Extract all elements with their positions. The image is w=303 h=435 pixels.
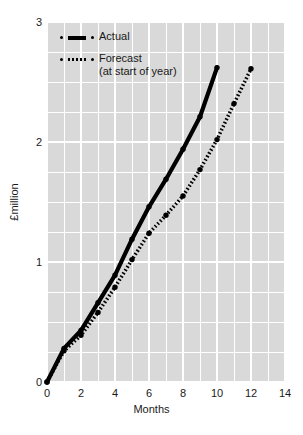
data-point-marker	[112, 273, 117, 278]
y-tick-label: 1	[30, 256, 42, 268]
data-point-marker	[180, 193, 185, 198]
legend-dotted-bar-icon	[68, 58, 86, 61]
legend-label-actual: Actual	[99, 30, 130, 43]
data-point-marker	[163, 213, 168, 218]
x-tick-label: 8	[180, 387, 186, 399]
legend: Actual Forecast (at start of year)	[60, 30, 177, 87]
x-tick-label: 12	[245, 387, 257, 399]
x-axis-title: Months	[0, 403, 303, 415]
legend-dot-icon	[60, 36, 63, 39]
x-tick-label: 2	[78, 387, 84, 399]
data-point-marker	[95, 300, 100, 305]
data-point-marker	[248, 66, 253, 71]
series-actual	[44, 65, 219, 385]
data-point-marker	[146, 231, 151, 236]
data-point-marker	[214, 137, 219, 142]
data-point-marker	[146, 204, 151, 209]
data-point-marker	[197, 114, 202, 119]
legend-sublabel-forecast: (at start of year)	[99, 65, 177, 78]
data-point-marker	[163, 177, 168, 182]
data-point-marker	[44, 379, 49, 384]
legend-item-actual: Actual	[60, 30, 177, 43]
x-tick-label: 4	[112, 387, 118, 399]
series-line	[47, 68, 217, 382]
data-point-marker	[95, 310, 100, 315]
chart-container: 02468101214 0123 Months £million Actual …	[0, 0, 303, 435]
data-point-marker	[197, 167, 202, 172]
y-tick-label: 0	[30, 376, 42, 388]
legend-label-forecast: Forecast	[99, 52, 177, 65]
data-point-marker	[129, 257, 134, 262]
legend-solid-bar-icon	[68, 36, 86, 40]
legend-dot-icon	[60, 58, 63, 61]
data-point-marker	[78, 333, 83, 338]
x-tick-label: 0	[44, 387, 50, 399]
x-tick-label: 6	[146, 387, 152, 399]
data-point-marker	[180, 147, 185, 152]
data-point-marker	[129, 237, 134, 242]
x-tick-label: 10	[211, 387, 223, 399]
legend-dot-icon	[91, 36, 94, 39]
legend-key-solid-line	[60, 32, 94, 43]
legend-item-forecast: Forecast (at start of year)	[60, 52, 177, 78]
data-point-marker	[214, 65, 219, 70]
legend-key-dotted-line	[60, 54, 94, 65]
y-axis-title: £million	[8, 162, 20, 242]
legend-dot-icon	[91, 58, 94, 61]
data-point-marker	[112, 285, 117, 290]
data-point-marker	[61, 348, 66, 353]
data-point-marker	[231, 101, 236, 106]
x-tick-label: 14	[279, 387, 291, 399]
y-tick-label: 2	[30, 136, 42, 148]
y-tick-label: 3	[30, 16, 42, 28]
